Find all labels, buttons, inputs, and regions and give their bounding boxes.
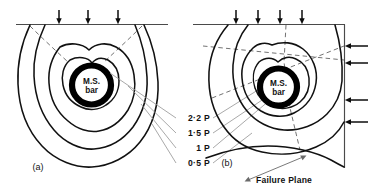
failure-plane-label: Failure Plane bbox=[256, 175, 312, 185]
bar-label-a-line1: M.S. bbox=[83, 77, 100, 86]
dashed-diagonal-b-1 bbox=[203, 46, 344, 60]
load-arrows-b bbox=[233, 10, 304, 24]
panel-label-a: (a) bbox=[33, 162, 44, 172]
leader-a-1.5P bbox=[128, 86, 176, 133]
dashed-lines-a bbox=[30, 26, 142, 62]
side-arrow-b-1 bbox=[345, 43, 368, 48]
load-arrow-b-4 bbox=[299, 10, 304, 24]
side-arrow-b-4 bbox=[345, 119, 368, 124]
contour-diagram-svg: M.S. bar (a) 2·2 P 1·5 P 1 P 0·5 P bbox=[0, 0, 369, 190]
load-arrow-b-1 bbox=[233, 10, 238, 24]
bar-label-b-line2: bar bbox=[272, 88, 286, 97]
bar-label-a-line2: bar bbox=[85, 86, 99, 95]
contour-value-1P: 1 P bbox=[196, 143, 210, 153]
contour-value-labels: 2·2 P 1·5 P 1 P 0·5 P bbox=[188, 113, 210, 168]
load-arrow-a-3 bbox=[115, 10, 120, 24]
load-arrow-b-2 bbox=[255, 10, 260, 24]
panel-b: M.S. bar (b) Failure Plane bbox=[193, 10, 368, 185]
panel-label-b: (b) bbox=[222, 158, 233, 168]
side-arrows-b bbox=[345, 43, 368, 124]
leader-a-2.2P bbox=[110, 73, 176, 118]
load-arrow-a-1 bbox=[56, 10, 61, 24]
side-arrow-b-2 bbox=[345, 60, 368, 65]
contour-value-2.2P: 2·2 P bbox=[188, 113, 210, 123]
load-arrows-a bbox=[56, 10, 120, 24]
figure-container: M.S. bar (a) 2·2 P 1·5 P 1 P 0·5 P bbox=[0, 0, 369, 190]
leader-a-1P bbox=[141, 104, 176, 148]
load-arrow-a-2 bbox=[85, 10, 90, 24]
contour-value-1.5P: 1·5 P bbox=[188, 128, 210, 138]
side-arrow-b-3 bbox=[345, 97, 368, 102]
contour-value-0.5P: 0·5 P bbox=[188, 158, 210, 168]
panel-a: M.S. bar (a) bbox=[16, 10, 168, 172]
bar-label-b-line1: M.S. bbox=[270, 79, 287, 88]
load-arrow-b-3 bbox=[277, 10, 282, 24]
